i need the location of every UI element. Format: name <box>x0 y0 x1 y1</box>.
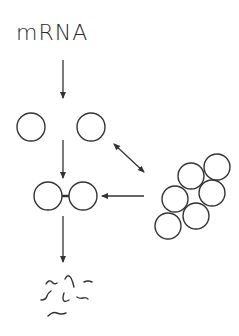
diagram-canvas <box>0 0 239 336</box>
aggregate-circle-4 <box>183 203 209 229</box>
aggregate-circle-3 <box>162 186 188 212</box>
dimer-left-circle <box>34 182 62 210</box>
aggregate-circle-0 <box>204 154 230 180</box>
aggregate-circle-1 <box>178 163 204 189</box>
monomers-aggregate-equilibrium-arrow <box>114 144 144 172</box>
fragments-icon <box>41 276 92 316</box>
monomer-right-circle <box>77 113 105 141</box>
dimer-right-circle <box>69 182 97 210</box>
aggregate-circle-2 <box>199 180 225 206</box>
aggregate-circle-5 <box>155 213 181 239</box>
monomer-left-circle <box>17 113 45 141</box>
